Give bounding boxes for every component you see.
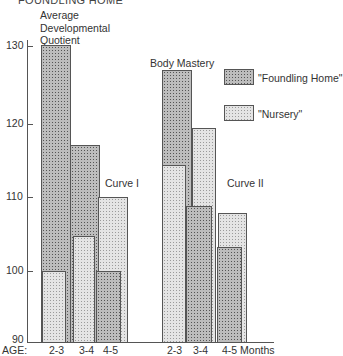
bar-curve2-nursery-2-3 — [162, 165, 186, 342]
y-label-line2: Developmental — [40, 22, 110, 35]
x-label-left-2-3: 2-3 — [49, 344, 64, 356]
y-tick-100 — [27, 271, 33, 272]
y-tick-label-100: 100 — [6, 264, 24, 276]
y-tick-label-130: 130 — [6, 39, 24, 51]
x-label-left-3-4: 3-4 — [79, 344, 94, 356]
bar-curve2-foundling-4-5 — [217, 247, 242, 342]
bar-curve1-nursery-2-3 — [42, 271, 66, 342]
x-axis-prefix: AGE: — [2, 344, 27, 356]
chart-header: FOUNDLING HOME — [18, 0, 123, 6]
y-tick-120 — [27, 124, 33, 125]
bar-curve1-nursery-3-4 — [73, 236, 95, 342]
y-tick-label-120: 120 — [6, 117, 24, 129]
y-tick-label-110: 110 — [6, 190, 23, 202]
legend-label-nursery: "Nursery" — [258, 108, 302, 120]
curve2-label: Curve II — [227, 177, 264, 189]
legend-label-foundling: "Foundling Home" — [258, 72, 343, 84]
y-tick-110 — [27, 197, 33, 198]
legend-swatch-nursery — [224, 105, 254, 121]
y-axis — [27, 40, 28, 343]
legend-swatch-foundling — [224, 69, 254, 85]
x-label-right-4-5: 4-5 Months — [222, 344, 275, 356]
x-label-right-3-4: 3-4 — [193, 344, 208, 356]
y-tick-130 — [27, 46, 33, 47]
x-label-right-2-3: 2-3 — [167, 344, 182, 356]
y-label-line1: Average — [40, 9, 110, 22]
x-label-left-4-5: 4-5 — [103, 344, 118, 356]
x-axis — [27, 342, 274, 343]
bar-curve2-foundling-3-4 — [186, 206, 212, 342]
y-axis-label: Average Developmental Quotient — [40, 9, 110, 47]
curve2-title: Body Mastery — [150, 57, 214, 69]
bar-curve1-foundling-4-5 — [96, 271, 121, 342]
curve1-label: Curve I — [105, 177, 139, 189]
